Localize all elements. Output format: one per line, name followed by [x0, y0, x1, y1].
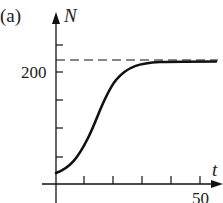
x-axis-arrow-icon: [211, 180, 223, 188]
panel-label: (a): [0, 6, 21, 25]
x-ticks: [84, 176, 200, 184]
y-axis-label: N: [64, 6, 77, 25]
y-ticks: [56, 45, 63, 157]
x-tick-label: 50: [192, 190, 209, 203]
logistic-curve: [56, 62, 216, 174]
y-tick-label: 200: [21, 64, 47, 81]
y-axis-arrow-icon: [52, 12, 60, 24]
x-axis-label: t: [212, 160, 217, 179]
logistic-chart: [0, 0, 223, 203]
